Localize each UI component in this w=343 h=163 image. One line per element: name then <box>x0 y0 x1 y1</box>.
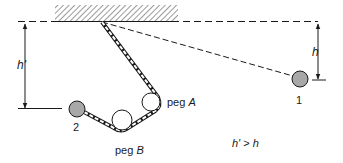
h-prime-label: h' <box>17 58 27 72</box>
h-label: h <box>312 45 319 59</box>
ball-2-label: 2 <box>73 121 79 133</box>
ball-1 <box>292 71 308 87</box>
h-prime-dimension: h' <box>17 24 62 109</box>
peg-b-label: peg B <box>115 144 144 156</box>
ball-2 <box>69 101 85 117</box>
peg-b <box>112 110 132 130</box>
h-dimension: h <box>312 24 326 80</box>
ball-1-label: 1 <box>296 94 302 106</box>
peg-a <box>142 93 160 111</box>
pendulum-peg-diagram: h h' 1 2 peg A peg B h' > h <box>0 0 343 163</box>
initial-string-dashed <box>102 22 293 76</box>
ceiling-support <box>55 5 178 22</box>
relation-label: h' > h <box>232 137 259 149</box>
peg-a-label: peg A <box>167 96 196 108</box>
